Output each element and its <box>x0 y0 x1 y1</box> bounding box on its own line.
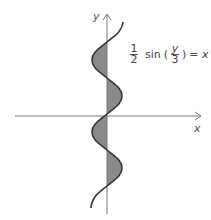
y-axis-label: y <box>93 10 100 23</box>
x-axis-label: x <box>194 122 201 135</box>
diagram <box>0 0 211 220</box>
function-name: sin <box>145 48 161 61</box>
equation: 1 2 sin ( y 3 ) = x <box>130 44 209 65</box>
equation-rhs: = x <box>189 48 208 61</box>
coefficient-fraction: 1 2 <box>130 44 138 65</box>
argument-fraction: y 3 <box>171 44 179 65</box>
